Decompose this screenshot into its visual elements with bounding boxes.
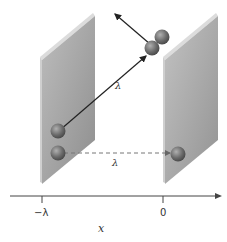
ball-cluster-front xyxy=(145,41,160,56)
x-axis-label: x xyxy=(98,222,104,235)
ball-left-upper xyxy=(51,124,66,139)
horizontal-lambda-label: λ xyxy=(112,157,118,168)
ball-right xyxy=(171,147,186,162)
tick-label-zero: 0 xyxy=(160,207,166,218)
diagram-svg xyxy=(0,0,227,242)
left-plate xyxy=(40,13,95,184)
diagonal-lambda-label: λ xyxy=(115,80,121,91)
ball-left-lower xyxy=(51,146,66,161)
emitted-arrow xyxy=(115,14,150,44)
tick-label-minus-lambda: −λ xyxy=(34,207,48,218)
diagram-canvas: λ λ −λ 0 x xyxy=(0,0,227,242)
right-plate xyxy=(163,13,218,184)
axis-arrow-icon xyxy=(215,193,222,199)
